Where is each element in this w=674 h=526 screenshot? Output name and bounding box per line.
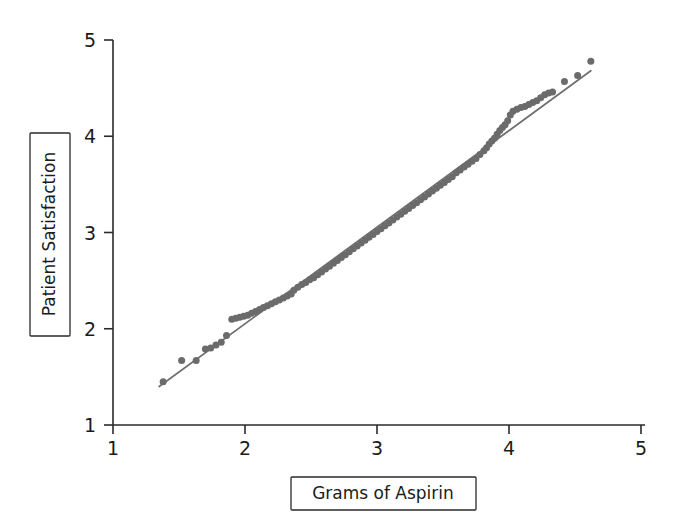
x-tick-label: 4 [503, 437, 515, 459]
y-tick-label: 2 [84, 318, 96, 340]
scatter-point [193, 357, 200, 364]
x-tick-label: 5 [635, 437, 647, 459]
scatter-point [160, 378, 167, 385]
scatter-point [549, 88, 556, 95]
qq-scatter-plot: 12345 12345 Patient Satisfaction Grams o… [0, 0, 674, 526]
scatter-point [561, 78, 568, 85]
scatter-point [218, 339, 225, 346]
x-axis-title-group: Grams of Aspirin [291, 477, 476, 510]
y-tick-label: 1 [84, 414, 96, 436]
y-tick-label: 3 [84, 222, 96, 244]
scatter-point [223, 332, 230, 339]
x-tick-label: 2 [239, 437, 251, 459]
chart-page: 12345 12345 Patient Satisfaction Grams o… [0, 0, 674, 526]
x-tick-label: 1 [107, 437, 119, 459]
y-axis-title-group: Patient Satisfaction [30, 133, 70, 336]
y-tick-label: 4 [84, 125, 96, 147]
scatter-point [587, 58, 594, 65]
y-axis-title-label: Patient Satisfaction [39, 152, 59, 316]
x-tick-label: 3 [371, 437, 383, 459]
x-axis-title-label: Grams of Aspirin [312, 483, 454, 503]
y-tick-label: 5 [84, 29, 96, 51]
scatter-point [574, 72, 581, 79]
scatter-point [178, 357, 185, 364]
